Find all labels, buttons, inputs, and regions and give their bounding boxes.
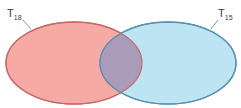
- set-label-t18-main: T: [7, 7, 14, 19]
- venn-diagram: [0, 0, 241, 108]
- set-label-t15-sub: 15: [225, 14, 233, 21]
- t15-leader-line: [211, 20, 218, 29]
- set-label-t18: T18: [7, 8, 22, 19]
- set-label-t15: T15: [218, 8, 233, 19]
- set-label-t15-main: T: [218, 7, 225, 19]
- set-label-t18-sub: 18: [14, 14, 22, 21]
- t18-leader-line: [23, 20, 31, 29]
